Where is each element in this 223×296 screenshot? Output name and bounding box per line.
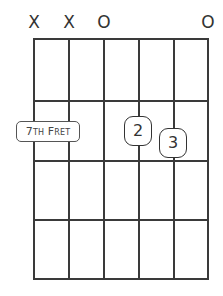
fret-word-rest: RET — [54, 128, 70, 137]
string-3-marker: O — [94, 12, 114, 32]
string-line-3 — [103, 38, 105, 280]
string-1-marker: X — [24, 12, 44, 32]
finger-marker-2: 2 — [124, 116, 152, 146]
string-line-2 — [68, 38, 70, 280]
string-6-marker: O — [198, 12, 218, 32]
fret-line-top — [33, 38, 209, 40]
string-line-4 — [138, 38, 140, 280]
fret-suffix: TH — [33, 128, 44, 137]
chord-diagram: X X O O 7TH FRET 2 3 — [0, 0, 223, 296]
fret-position-label: 7TH FRET — [16, 121, 80, 142]
finger-marker-3: 3 — [159, 128, 187, 158]
string-line-6 — [207, 38, 209, 280]
fret-line-1 — [33, 100, 209, 102]
string-line-5 — [173, 38, 175, 280]
string-2-marker: X — [59, 12, 79, 32]
fret-line-3 — [33, 219, 209, 221]
fret-line-4 — [33, 278, 209, 280]
fret-number: 7 — [26, 125, 33, 138]
fret-line-2 — [33, 160, 209, 162]
string-line-1 — [33, 38, 35, 280]
